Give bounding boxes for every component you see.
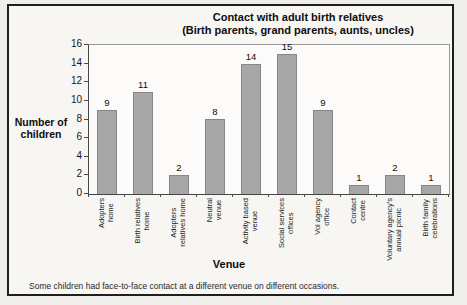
x-category-label-text: Social services offices — [277, 198, 295, 248]
bar-value-label: 11 — [125, 79, 161, 90]
bar-birth-family-celebrations — [421, 185, 441, 194]
x-category-label-birth-family-celebrations: Birth family celebrations — [412, 198, 448, 270]
chart-title: Contact with adult birth relatives (Birt… — [158, 11, 438, 37]
x-tick-mark — [196, 194, 197, 197]
y-tick-label-16: 16 — [52, 38, 82, 50]
chart-title-line1: Contact with adult birth relatives — [158, 11, 438, 24]
y-tick-label-8: 8 — [52, 113, 82, 125]
x-tick-mark — [340, 194, 341, 197]
x-category-label-contact-centre: Contact centre — [340, 198, 376, 270]
x-category-label-text: Contact centre — [349, 198, 367, 224]
y-tick-label-2: 2 — [52, 168, 82, 180]
chart-title-line2: (Birth parents, grand parents, aunts, un… — [158, 24, 438, 37]
bar-value-label: 2 — [377, 162, 413, 173]
y-tick-label-10: 10 — [52, 94, 82, 106]
x-category-label-vol-agency-office: Vol agency office — [304, 198, 340, 270]
chart-footnote: Some children had face-to-face contact a… — [29, 281, 439, 291]
bar-vol-agency-office — [313, 110, 333, 194]
x-tick-mark — [232, 194, 233, 197]
bar-value-label: 15 — [269, 41, 305, 52]
bar-adopters-home — [97, 110, 117, 194]
bar-social-services-offices — [277, 54, 297, 194]
x-category-label-text: Birth relatives home — [133, 198, 151, 243]
x-axis-title: Venue — [149, 258, 309, 270]
x-tick-mark — [412, 194, 413, 197]
bar-adopters-relatives-home — [169, 175, 189, 194]
x-tick-mark — [448, 194, 449, 197]
y-tick-label-14: 14 — [52, 57, 82, 69]
x-tick-mark — [124, 194, 125, 197]
x-category-label-text: Vol agency office — [313, 198, 331, 235]
bar-value-label: 8 — [197, 106, 233, 117]
x-tick-mark — [304, 194, 305, 197]
bar-value-label: 9 — [305, 97, 341, 108]
bar-value-label: 1 — [341, 172, 377, 183]
y-tick-label-12: 12 — [52, 75, 82, 87]
x-category-label-text: Adopters home — [97, 198, 115, 228]
chart-frame: Contact with adult birth relatives (Birt… — [7, 4, 454, 296]
bar-birth-relatives-home — [133, 92, 153, 194]
bar-value-label: 14 — [233, 51, 269, 62]
bar-value-label: 2 — [161, 162, 197, 173]
bar-activity-based-venue — [241, 64, 261, 194]
scanned-bar-chart-figure: Contact with adult birth relatives (Birt… — [0, 0, 467, 305]
x-tick-mark — [268, 194, 269, 197]
plot-area: 9112814159121 — [88, 44, 450, 195]
x-category-label-text: Activity based venue — [241, 198, 259, 244]
x-tick-mark — [376, 194, 377, 197]
bar-neutral-venue — [205, 119, 225, 194]
x-tick-mark — [160, 194, 161, 197]
bar-contact-centre — [349, 185, 369, 194]
x-category-label-text: Adopters relatives home — [169, 198, 187, 247]
y-tick-label-0: 0 — [52, 187, 82, 199]
x-category-label-text: Voluntary agency's annual picnic — [385, 198, 403, 261]
x-category-label-voluntary-agency-s-annual-picnic: Voluntary agency's annual picnic — [376, 198, 412, 270]
y-tick-label-4: 4 — [52, 150, 82, 162]
x-category-label-text: Neutral venue — [205, 198, 223, 222]
bar-value-label: 1 — [413, 172, 449, 183]
x-category-label-text: Birth family celebrations — [421, 198, 439, 238]
bar-voluntary-agency-s-annual-picnic — [385, 175, 405, 194]
bar-value-label: 9 — [89, 97, 125, 108]
x-category-label-adopters-home: Adopters home — [88, 198, 124, 270]
y-tick-label-6: 6 — [52, 131, 82, 143]
x-tick-mark — [88, 194, 89, 197]
